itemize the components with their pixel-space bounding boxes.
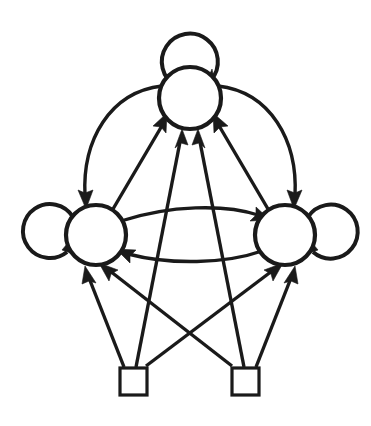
- state-node-left[interactable]: [66, 205, 126, 265]
- terminal-group: [120, 368, 259, 395]
- state-transition-diagram: State transition diagram: [0, 0, 371, 426]
- state-node-top[interactable]: [159, 67, 221, 129]
- edge-srcright-to-right-arrowhead: [284, 266, 298, 284]
- edge-right-to-left[interactable]: [128, 251, 262, 262]
- state-node-right[interactable]: [255, 205, 315, 265]
- edge-srcleft-to-top-arrowhead: [175, 129, 188, 148]
- edge-srcleft-to-left-arrowhead: [82, 266, 96, 284]
- lateral-curve-group: [116, 207, 270, 263]
- edge-left-to-right[interactable]: [121, 208, 258, 221]
- edge-right-to-top[interactable]: [218, 124, 268, 209]
- edge-srcleft-to-right[interactable]: [146, 271, 272, 366]
- edge-top-to-left[interactable]: [85, 86, 162, 196]
- terminal-node-right[interactable]: [232, 368, 259, 395]
- edge-srcright-to-right[interactable]: [256, 278, 291, 367]
- diagram-canvas: State transition diagram: [0, 0, 371, 426]
- edge-srcright-to-top[interactable]: [200, 142, 244, 367]
- node-group: [66, 67, 315, 265]
- edge-srcright-to-top-arrowhead: [192, 129, 205, 148]
- edge-srcleft-to-left[interactable]: [89, 278, 124, 367]
- edge-left-to-top[interactable]: [113, 124, 163, 209]
- edge-srcright-to-left[interactable]: [110, 271, 232, 366]
- edge-srcleft-to-top[interactable]: [136, 142, 180, 367]
- terminal-node-left[interactable]: [120, 368, 147, 395]
